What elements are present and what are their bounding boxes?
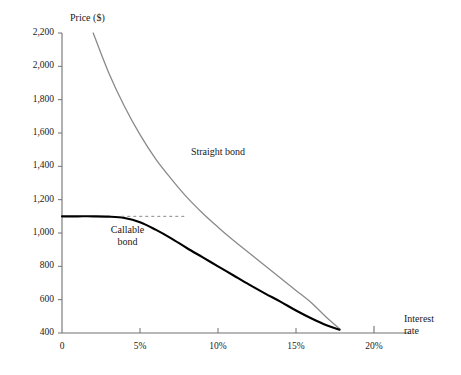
y-tick-label: 400 <box>14 327 54 338</box>
x-tick-label: 5% <box>120 341 160 352</box>
series-curves <box>62 33 340 330</box>
y-tick-label: 800 <box>14 260 54 271</box>
y-tick-label: 2,200 <box>14 27 54 38</box>
y-axis-ticks <box>58 33 62 333</box>
x-tick-label: 10% <box>198 341 238 352</box>
x-axis-ticks <box>140 328 296 333</box>
y-tick-label: 1,400 <box>14 160 54 171</box>
x-tick-label: 0 <box>42 341 82 352</box>
y-tick-label: 1,600 <box>14 127 54 138</box>
callable-bond-label-line: Callable <box>96 224 160 236</box>
callable-bond-label-line: bond <box>96 236 160 248</box>
chart-figure: 4006008001,0001,2001,4001,6001,8002,0002… <box>0 0 461 375</box>
x-tick-label: 20% <box>354 341 394 352</box>
y-tick-label: 2,000 <box>14 60 54 71</box>
y-tick-label: 1,000 <box>14 227 54 238</box>
straight-bond-label: Straight bond <box>186 146 250 158</box>
series-curve-straight-bond <box>93 33 339 329</box>
y-tick-label: 1,200 <box>14 194 54 205</box>
x-tick-label: 15% <box>276 341 316 352</box>
chart-plot-area <box>0 0 461 375</box>
x-axis-title-line: rate <box>404 325 434 337</box>
callable-bond-label: Callablebond <box>96 224 160 248</box>
y-axis-title: Price ($) <box>70 12 105 24</box>
x-axis-title: Interestrate <box>404 313 434 336</box>
y-tick-label: 600 <box>14 294 54 305</box>
x-axis-title-line: Interest <box>404 313 434 325</box>
straight-bond-label-line: Straight bond <box>186 146 250 158</box>
y-tick-label: 1,800 <box>14 94 54 105</box>
